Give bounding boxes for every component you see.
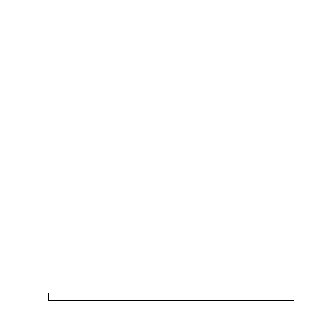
- gdp-area-chart-figure: [0, 0, 314, 331]
- x-axis-tick-marks: [51, 301, 294, 307]
- plot-area: [51, 23, 294, 300]
- y-axis-baseline-cap: [48, 293, 49, 301]
- y-axis-tick-labels: [0, 23, 48, 300]
- area-series-svg: [51, 23, 294, 300]
- x-axis-tick-labels: [0, 308, 314, 324]
